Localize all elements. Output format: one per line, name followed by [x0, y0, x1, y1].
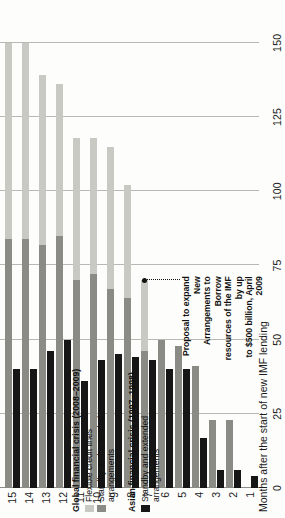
bar-row-asian-crisis [234, 0, 241, 518]
bar-row-asian-crisis [183, 0, 190, 518]
annotation-marker-dot [142, 278, 147, 283]
bar-segment-standby-extended-global [209, 420, 216, 488]
bar-segment-standby-extended-asian [200, 438, 207, 488]
category-tick-label: 13 [40, 492, 52, 510]
bar-segment-standby-extended-global [192, 366, 199, 488]
category-tick-label: 15 [6, 492, 18, 510]
legend-swatch-fcl [85, 505, 94, 512]
annotation-text: Proposal to expand New Arrangements to B… [181, 276, 265, 372]
value-tick-label: 75 [271, 259, 283, 271]
value-tick-label: 125 [271, 108, 283, 126]
legend-item-label: Flexible credit lines [84, 429, 94, 502]
annotation-leader-line [147, 279, 180, 280]
bar-segment-standby-extended-global [39, 245, 46, 488]
value-tick-label: 25 [271, 408, 283, 420]
bar-group [4, 0, 21, 518]
bar-row-asian-crisis [30, 0, 37, 518]
legend-item[interactable]: Standby and extended arrangements [140, 362, 160, 512]
bar-segment-standby-extended-asian [166, 369, 173, 488]
bar-segment-standby-extended-asian [13, 369, 20, 488]
bar-group [208, 0, 225, 518]
category-tick-label: 12 [57, 492, 69, 510]
bar-segment-standby-extended-asian [217, 470, 224, 488]
bar-row-asian-crisis [217, 0, 224, 518]
bar-row-global-crisis [39, 0, 46, 518]
value-tick-label: 100 [271, 182, 283, 200]
value-tick-label: 150 [271, 34, 283, 52]
chart-canvas: 0255075100125150123456789101112131415Mon… [0, 0, 285, 518]
legend-swatch-sba [97, 505, 106, 512]
bar-row-asian-crisis [200, 0, 207, 518]
bar-row-asian-crisis [47, 0, 54, 518]
category-tick-label: 14 [23, 492, 35, 510]
bar-row-asian-crisis [13, 0, 20, 518]
bar-segment-standby-extended-asian [47, 351, 54, 488]
bar-group [55, 0, 72, 518]
legend-item[interactable]: Flexible credit lines [84, 362, 94, 512]
value-tick-label: 0 [271, 485, 283, 491]
legend-item-label: Standby and extended arrangements [140, 416, 160, 502]
bar-segment-standby-extended-asian [183, 369, 190, 488]
category-tick-label: 2 [227, 492, 239, 510]
value-tick-label: 50 [271, 334, 283, 346]
bar-segment-standby-extended-global [22, 239, 29, 488]
legend-swatch-asia [141, 505, 150, 512]
bar-row-global-crisis [5, 0, 12, 518]
plot-area: 0255075100125150123456789101112131415Mon… [0, 0, 285, 518]
category-tick-label: 5 [176, 492, 188, 510]
bar-group [21, 0, 38, 518]
legend-group-title: Asian financial crisis (1997–1998) [127, 362, 137, 512]
bar-row-global-crisis [175, 0, 182, 518]
legend: Global financial crisis (2008–2009)Flexi… [71, 362, 163, 512]
legend-item[interactable]: Standby and extended arrangements [96, 362, 116, 512]
legend-group-spacer [118, 362, 127, 512]
bar-row-global-crisis [226, 0, 233, 518]
bar-row-global-crisis [192, 0, 199, 518]
bar-row-global-crisis [243, 0, 250, 518]
bar-row-global-crisis [56, 0, 63, 518]
bar-row-global-crisis [22, 0, 29, 518]
bar-group [225, 0, 242, 518]
bar-segment-standby-extended-asian [30, 369, 37, 488]
bar-group [38, 0, 55, 518]
category-tick-label: 4 [193, 492, 205, 510]
category-tick-label: 1 [244, 492, 256, 510]
bar-row-global-crisis [209, 0, 216, 518]
bar-row-asian-crisis [166, 0, 173, 518]
bar-group [174, 0, 191, 518]
bar-segment-standby-extended-global [5, 239, 12, 488]
bar-group [191, 0, 208, 518]
bar-segment-standby-extended-asian [234, 470, 241, 488]
legend-item-label: Standby and extended arrangements [96, 416, 116, 502]
bar-segment-standby-extended-global [226, 420, 233, 488]
legend-group-title: Global financial crisis (2008–2009) [71, 362, 81, 512]
category-tick-label: 3 [210, 492, 222, 510]
bar-segment-standby-extended-global [56, 236, 63, 488]
